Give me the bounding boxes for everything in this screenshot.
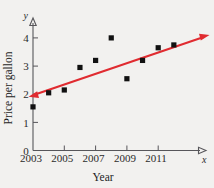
data-point: [62, 87, 67, 92]
y-tick-labels-group: 4 3 2 1 0: [23, 32, 29, 157]
x-axis-variable-label: x: [201, 154, 207, 165]
y-tick-label-3: 3: [23, 60, 29, 72]
chart-figure: 4 3 2 1 0 2003 2005 2007 2009 2011 y x Y…: [0, 0, 214, 188]
data-point: [171, 42, 176, 47]
y-tick-label-1: 1: [23, 117, 29, 129]
y-axis-variable-label: y: [23, 10, 29, 21]
data-point: [156, 45, 161, 50]
data-point: [109, 35, 114, 40]
data-point: [77, 65, 82, 70]
x-axis-title: Year: [92, 171, 113, 183]
data-markers-group: [30, 35, 176, 109]
data-point: [93, 58, 98, 63]
y-tick-label-2: 2: [23, 88, 29, 100]
x-tick-label-2005: 2005: [51, 152, 74, 164]
y-tick-marks-group: [33, 38, 38, 123]
trend-line-arrowhead-left: [29, 91, 40, 98]
data-point: [46, 90, 51, 95]
y-axis-title: Price per gallon: [2, 51, 15, 124]
x-tick-label-2011: 2011: [145, 152, 167, 164]
x-tick-labels-group: 2003 2005 2007 2009 2011: [20, 152, 167, 164]
data-point: [124, 76, 129, 81]
x-tick-marks-group: [64, 146, 158, 151]
x-tick-label-2003: 2003: [20, 152, 43, 164]
trend-line-group: [29, 34, 210, 98]
y-tick-label-4: 4: [23, 32, 29, 44]
axes-group: [30, 18, 206, 154]
data-point: [140, 58, 145, 63]
x-tick-label-2009: 2009: [114, 152, 136, 164]
scatter-plot: 4 3 2 1 0 2003 2005 2007 2009 2011 y x Y…: [0, 0, 214, 188]
trend-line: [35, 37, 203, 94]
x-tick-label-2007: 2007: [83, 152, 106, 164]
data-point: [30, 104, 35, 109]
trend-line-arrowhead-right: [199, 34, 210, 41]
